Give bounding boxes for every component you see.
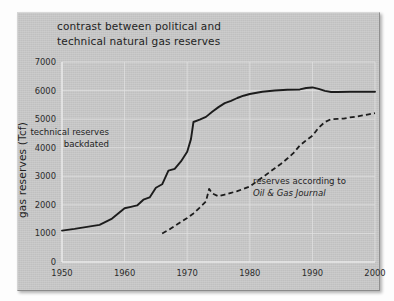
data-series-group: [62, 87, 375, 233]
y-tick-label: 5000: [35, 114, 56, 124]
x-tick-label: 1970: [177, 268, 198, 278]
x-tick-label: 1960: [114, 268, 135, 278]
y-tick-label: 7000: [35, 57, 56, 67]
series-line-journal: [162, 113, 375, 233]
oil-gas-journal-label-line1: reserves according to: [253, 176, 346, 186]
technical-reserves-label-line1: technical reserves: [30, 127, 109, 137]
oil-gas-journal-label-line2: Oil & Gas Journal: [253, 188, 326, 198]
y-tick-label: 6000: [35, 86, 56, 96]
x-tick-label: 1990: [302, 268, 323, 278]
x-tick-label: 1950: [51, 268, 72, 278]
y-tick-label: 2000: [35, 200, 56, 210]
y-axis-title: gas reserves (Tcf): [16, 122, 28, 218]
y-tick-label: 0: [51, 257, 56, 267]
series-line-technical: [62, 87, 375, 230]
y-tick-label: 1000: [35, 228, 56, 238]
x-tick-label: 2000: [364, 268, 385, 278]
y-tick-label: 3000: [35, 171, 56, 181]
y-tick-label: 4000: [35, 143, 56, 153]
chart-title-line1: contrast between political and: [57, 20, 221, 32]
x-tick-labels-group: 195019601970198019902000: [51, 268, 385, 278]
annotations-group: technical reservesbackdatedreserves acco…: [30, 127, 346, 198]
x-tick-label: 1980: [239, 268, 260, 278]
chart-svg: 01000200030004000500060007000 1950196019…: [0, 0, 394, 301]
chart-figure: 01000200030004000500060007000 1950196019…: [0, 0, 394, 301]
technical-reserves-label-line2: backdated: [64, 139, 109, 149]
y-tick-labels-group: 01000200030004000500060007000: [35, 57, 56, 267]
chart-title-line2: technical natural gas reserves: [57, 35, 220, 47]
